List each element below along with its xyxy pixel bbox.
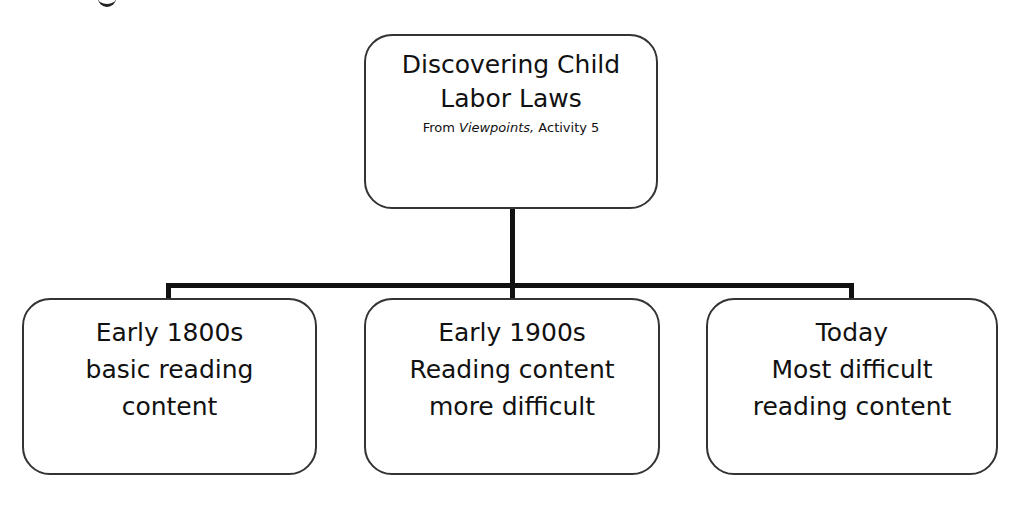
connector-drop-left (166, 283, 171, 299)
child-node-today: Today Most difficult reading content (706, 298, 998, 475)
child-line: content (122, 388, 218, 425)
subtitle-suffix: Activity 5 (534, 120, 599, 135)
root-title-line-2: Labor Laws (440, 82, 581, 116)
child-node-early-1800s: Early 1800s basic reading content (22, 298, 317, 475)
child-line: basic reading (86, 351, 254, 388)
subtitle-prefix: From (423, 120, 459, 135)
child-line: Most difficult (772, 351, 933, 388)
child-line: reading content (753, 388, 952, 425)
child-line: Today (816, 314, 888, 351)
child-line: Early 1900s (438, 314, 586, 351)
connector-drop-right (849, 283, 854, 299)
subtitle-source: Viewpoints, (459, 120, 534, 135)
child-node-early-1900s: Early 1900s Reading content more difficu… (364, 298, 660, 475)
root-subtitle: From Viewpoints, Activity 5 (423, 118, 600, 138)
child-line: Reading content (409, 351, 614, 388)
root-title-line-1: Discovering Child (402, 48, 620, 82)
connector-horizontal-bar (166, 283, 854, 288)
child-line: more difficult (429, 388, 595, 425)
child-line: Early 1800s (96, 314, 244, 351)
cropped-heading-fragment (98, 0, 116, 7)
root-node: Discovering Child Labor Laws From Viewpo… (364, 34, 658, 209)
